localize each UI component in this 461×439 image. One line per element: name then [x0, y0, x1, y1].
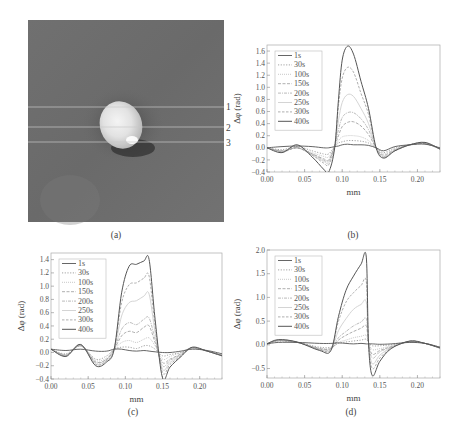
- x-tick-label: 0.20: [193, 382, 206, 391]
- y-tick-label: 0.0: [40, 348, 50, 357]
- y-tick-label: 1.5: [256, 269, 266, 278]
- y-tick-label: 1.2: [40, 268, 50, 277]
- legend-entry: 150s: [78, 287, 93, 296]
- x-tick-label: 0.00: [260, 381, 273, 390]
- caption-d: (d): [345, 407, 356, 418]
- y-tick-label: 1.0: [256, 83, 266, 92]
- legend-entry: 300s: [78, 315, 93, 324]
- y-tick-label: −0.5: [251, 364, 265, 373]
- series-line-30s: [267, 339, 440, 348]
- y-axis-label: Δφ (rad): [16, 301, 26, 332]
- legend-entry: 150s: [294, 79, 309, 88]
- y-tick-label: 0.0: [256, 143, 266, 152]
- series-line-100s: [267, 136, 440, 158]
- legend-entry: 1s: [294, 51, 301, 60]
- y-tick-label: −0.4: [35, 375, 49, 384]
- figure-canvas: 1 2 3 (a) (b) (c) (d) 0.000.050.100.150.…: [0, 0, 461, 439]
- legend-entry: 300s: [294, 107, 309, 116]
- x-tick-label: 0.15: [373, 381, 386, 390]
- y-tick-label: 1.2: [256, 71, 266, 80]
- y-tick-label: 0.4: [40, 322, 50, 331]
- x-tick-label: 0.15: [156, 382, 169, 391]
- caption-a: (a): [111, 230, 122, 241]
- y-tick-label: 0.8: [40, 295, 50, 304]
- y-tick-label: −0.2: [251, 156, 265, 165]
- y-tick-label: 0.6: [256, 107, 266, 116]
- legend-entry: 200s: [294, 294, 309, 303]
- legend-entry: 300s: [294, 312, 309, 321]
- y-axis-label: Δφ (rad): [232, 299, 242, 330]
- y-axis-label: Δφ (rad): [232, 93, 242, 124]
- legend-entry: 200s: [78, 297, 93, 306]
- legend-entry: 150s: [294, 284, 309, 293]
- legend-entry: 1s: [78, 259, 85, 268]
- chart-panel-c: 0.000.050.100.150.20−0.4−0.20.00.20.40.6…: [16, 253, 222, 404]
- legend-entry: 100s: [294, 70, 309, 79]
- chart-panel-d: 0.000.050.100.150.20−0.50.00.51.01.52.0m…: [232, 246, 440, 403]
- y-tick-label: 0.2: [256, 131, 266, 140]
- y-tick-label: −0.2: [35, 361, 49, 370]
- profile-line-label-1: 1: [226, 102, 231, 112]
- y-tick-label: 1.4: [256, 59, 266, 68]
- legend-entry: 200s: [294, 89, 309, 98]
- x-tick-label: 0.10: [336, 381, 349, 390]
- x-tick-label: 0.15: [373, 175, 386, 184]
- caption-b: (b): [347, 230, 358, 241]
- y-tick-label: 0.2: [40, 335, 50, 344]
- x-tick-label: 0.10: [119, 382, 132, 391]
- y-tick-label: 2.0: [256, 246, 266, 255]
- x-tick-label: 0.05: [298, 381, 311, 390]
- x-axis-label: mm: [129, 394, 143, 404]
- x-tick-label: 0.20: [411, 381, 424, 390]
- legend-entry: 100s: [78, 278, 93, 287]
- legend-entry: 250s: [294, 303, 309, 312]
- chart-panel-b: 0.000.050.100.150.20−0.4−0.20.00.20.40.6…: [232, 45, 440, 197]
- x-axis-label: mm: [346, 187, 360, 197]
- legend-entry: 30s: [294, 265, 305, 274]
- x-axis-label: mm: [346, 393, 360, 403]
- legend-entry: 400s: [294, 117, 309, 126]
- series-line-1s: [267, 342, 440, 347]
- panel-a-image: [28, 20, 224, 225]
- y-tick-label: 1.0: [40, 282, 50, 291]
- y-tick-label: 0.6: [40, 308, 50, 317]
- profile-line-label-2: 2: [226, 123, 231, 133]
- series-line-30s: [267, 140, 440, 154]
- x-tick-label: 0.10: [336, 175, 349, 184]
- y-tick-label: 1.4: [40, 255, 50, 264]
- legend-entry: 400s: [294, 322, 309, 331]
- y-tick-label: 0.0: [256, 340, 266, 349]
- x-tick-label: 0.05: [82, 382, 95, 391]
- profile-line-label-3: 3: [226, 138, 231, 148]
- series-line-1s: [51, 349, 222, 354]
- y-tick-label: −0.4: [251, 168, 265, 177]
- legend-entry: 250s: [294, 98, 309, 107]
- y-tick-label: 0.8: [256, 95, 266, 104]
- legend-entry: 30s: [294, 60, 305, 69]
- legend-entry: 30s: [78, 268, 89, 277]
- legend-entry: 250s: [78, 306, 93, 315]
- y-tick-label: 0.5: [256, 317, 266, 326]
- x-tick-label: 0.05: [298, 175, 311, 184]
- legend-entry: 400s: [78, 325, 93, 334]
- legend-entry: 1s: [294, 256, 301, 265]
- y-tick-label: 1.6: [256, 47, 266, 56]
- caption-c: (c): [128, 407, 139, 418]
- y-tick-label: 1.0: [256, 293, 266, 302]
- series-line-1s: [267, 144, 440, 151]
- x-tick-label: 0.20: [411, 175, 424, 184]
- y-tick-label: 0.4: [256, 119, 266, 128]
- legend-entry: 100s: [294, 275, 309, 284]
